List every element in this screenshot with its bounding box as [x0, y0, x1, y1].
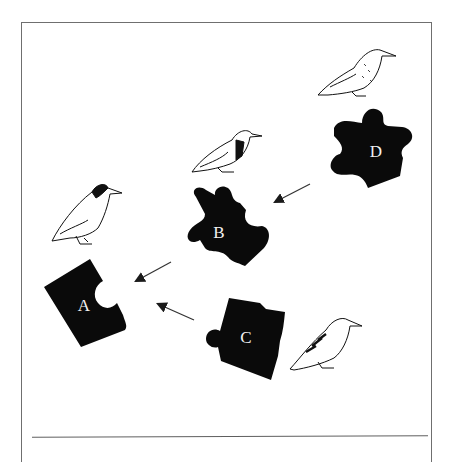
puzzle-piece-a: A	[44, 259, 126, 347]
piece-label-b: B	[213, 223, 224, 242]
bird-icon-c	[290, 318, 362, 370]
arrow-c-to-a	[158, 304, 194, 320]
piece-label-c: C	[240, 328, 251, 347]
puzzle-piece-b: B	[188, 186, 269, 266]
bird-icon-a	[52, 185, 122, 244]
arrow-b-to-a	[136, 262, 171, 281]
arrow-d-to-b	[275, 184, 310, 202]
bird-icon-b	[192, 131, 262, 172]
piece-label-a: A	[78, 296, 91, 315]
puzzle-piece-d: D	[331, 109, 413, 188]
puzzle-piece-c: C	[206, 298, 285, 380]
piece-label-d: D	[370, 142, 382, 161]
bird-icon-d	[318, 50, 396, 96]
